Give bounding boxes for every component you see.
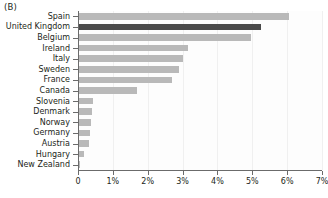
- x-axis-tick-label: 2%: [141, 177, 154, 186]
- bar-denmark: [78, 108, 92, 115]
- x-axis-tick-label: 3%: [176, 177, 189, 186]
- bar-canada: [78, 87, 137, 94]
- y-axis-label-spain: Spain: [48, 12, 70, 21]
- y-axis-label-new-zealand: New Zealand: [17, 160, 70, 169]
- y-axis-label-germany: Germany: [33, 128, 70, 137]
- bar-row: [78, 130, 322, 137]
- x-axis-tick: [322, 171, 323, 175]
- y-axis-label-belgium: Belgium: [37, 33, 70, 42]
- bar-row: [78, 98, 322, 105]
- bar-row: [78, 34, 322, 41]
- bar-ireland: [78, 45, 188, 52]
- y-axis-labels: SpainUnited KingdomBelgiumIrelandItalySw…: [0, 11, 70, 170]
- bar-row: [78, 13, 322, 20]
- x-axis-tick: [183, 171, 184, 175]
- x-axis-tick: [113, 171, 114, 175]
- x-axis-tick-label: 7%: [316, 177, 328, 186]
- x-axis-tick: [287, 171, 288, 175]
- x-axis-tick: [148, 171, 149, 175]
- bar-row: [78, 140, 322, 147]
- x-axis-tick: [217, 171, 218, 175]
- x-axis-tick: [78, 171, 79, 175]
- y-axis-label-sweden: Sweden: [38, 65, 70, 74]
- y-axis-label-france: France: [43, 75, 70, 84]
- x-axis-tick-label: 5%: [246, 177, 259, 186]
- bar-row: [78, 119, 322, 126]
- bar-row: [78, 77, 322, 84]
- bar-sweden: [78, 66, 179, 73]
- y-axis-line: [78, 11, 79, 171]
- bar-norway: [78, 119, 91, 126]
- x-axis-line: [78, 170, 322, 171]
- y-axis-label-italy: Italy: [53, 54, 70, 63]
- y-axis-label-canada: Canada: [40, 86, 70, 95]
- bar-row: [78, 151, 322, 158]
- bar-row: [78, 108, 322, 115]
- bar-belgium: [78, 34, 251, 41]
- x-axis-tick-label: 1%: [106, 177, 119, 186]
- x-axis-tick: [252, 171, 253, 175]
- bar-row: [78, 55, 322, 62]
- x-axis-tick-label: 6%: [281, 177, 294, 186]
- bar-spain: [78, 13, 289, 20]
- y-axis-label-hungary: Hungary: [36, 150, 70, 159]
- x-axis-tick-label: 4%: [211, 177, 224, 186]
- bar-germany: [78, 130, 90, 137]
- y-axis-label-denmark: Denmark: [33, 107, 70, 116]
- bar-slovenia: [78, 98, 93, 105]
- y-axis-label-austria: Austria: [42, 139, 70, 148]
- bars-container: [78, 11, 322, 170]
- bar-italy: [78, 55, 183, 62]
- gridline: [322, 11, 323, 170]
- bar-row: [78, 66, 322, 73]
- bar-row: [78, 45, 322, 52]
- y-axis-label-slovenia: Slovenia: [36, 97, 70, 106]
- x-axis-tick-label: 0: [75, 177, 80, 186]
- bar-row: [78, 161, 322, 168]
- bar-row: [78, 87, 322, 94]
- y-axis-label-ireland: Ireland: [42, 44, 70, 53]
- bar-united-kingdom: [78, 24, 261, 31]
- y-axis-label-norway: Norway: [40, 118, 70, 127]
- bar-france: [78, 77, 172, 84]
- y-axis-label-united-kingdom: United Kingdom: [6, 22, 70, 31]
- bar-row: [78, 24, 322, 31]
- bar-austria: [78, 140, 89, 147]
